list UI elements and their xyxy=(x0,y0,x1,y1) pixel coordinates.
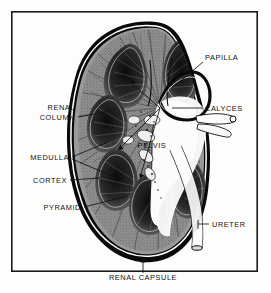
label-cortex: CORTEX xyxy=(33,176,67,185)
label-renal-capsule: RENAL CAPSULE xyxy=(109,273,177,282)
label-ureter: URETER xyxy=(212,220,246,229)
label-renal-column-line2: COLUMN xyxy=(40,113,75,122)
label-pyramid: PYRAMID xyxy=(43,203,81,212)
label-pelvis: PELVIS xyxy=(138,141,167,150)
ureter-cut-end xyxy=(192,246,202,250)
label-calyces: CALYCES xyxy=(205,104,243,113)
kidney-diagram-figure: PAPILLA CALYCES RENAL COLUMN MEDULLA COR… xyxy=(0,0,271,293)
label-papilla: PAPILLA xyxy=(205,53,238,62)
label-renal-column-line1: RENAL xyxy=(48,103,75,112)
kidney-diagram-canvas: PAPILLA CALYCES RENAL COLUMN MEDULLA COR… xyxy=(0,0,271,293)
label-medulla: MEDULLA xyxy=(30,153,69,162)
